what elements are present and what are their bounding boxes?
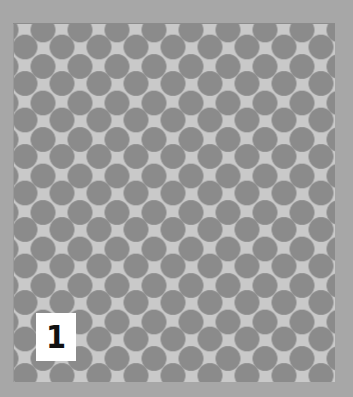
number-label-text: 1 [46, 321, 66, 353]
number-label-badge: 1 [36, 313, 76, 361]
